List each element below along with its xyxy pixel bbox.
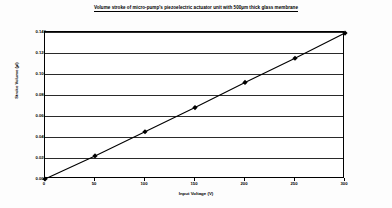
data-point-marker bbox=[242, 80, 247, 85]
chart-title-text: Volume stroke of micro-pump's piezoelect… bbox=[94, 5, 298, 12]
x-axis-tick-label: 150 bbox=[179, 181, 209, 186]
x-axis-tick-label: 250 bbox=[279, 181, 309, 186]
x-axis-tick-label: 100 bbox=[129, 181, 159, 186]
x-axis-tick-label: 300 bbox=[329, 181, 359, 186]
y-axis-tick-label: 0.140 bbox=[10, 29, 46, 34]
data-point-marker bbox=[142, 129, 147, 134]
x-axis-tick-label: 50 bbox=[79, 181, 109, 186]
data-point-marker bbox=[192, 105, 197, 110]
y-axis-tick-label: 0.080 bbox=[10, 92, 46, 97]
chart-container: Volume stroke of micro-pump's piezoelect… bbox=[0, 0, 392, 208]
y-axis-tick-label: 0.040 bbox=[10, 134, 46, 139]
y-axis-tick-label: 0.020 bbox=[10, 155, 46, 160]
data-point-marker bbox=[92, 153, 97, 158]
y-axis-tick-label: 0.060 bbox=[10, 113, 46, 118]
y-axis-tick-label: 0.100 bbox=[10, 71, 46, 76]
x-axis-tick-label: 0 bbox=[29, 181, 59, 186]
data-series-stroke-volume bbox=[45, 32, 345, 179]
x-axis-tick-label: 200 bbox=[229, 181, 259, 186]
data-point-marker bbox=[292, 56, 297, 61]
plot-area bbox=[44, 31, 344, 178]
x-axis-title: Input Voltage (V) bbox=[0, 191, 392, 196]
y-axis-tick-label: 0.120 bbox=[10, 50, 46, 55]
data-point-marker bbox=[342, 30, 347, 35]
y-axis-tick-label: 0.000 bbox=[10, 176, 46, 181]
chart-title: Volume stroke of micro-pump's piezoelect… bbox=[0, 4, 392, 11]
